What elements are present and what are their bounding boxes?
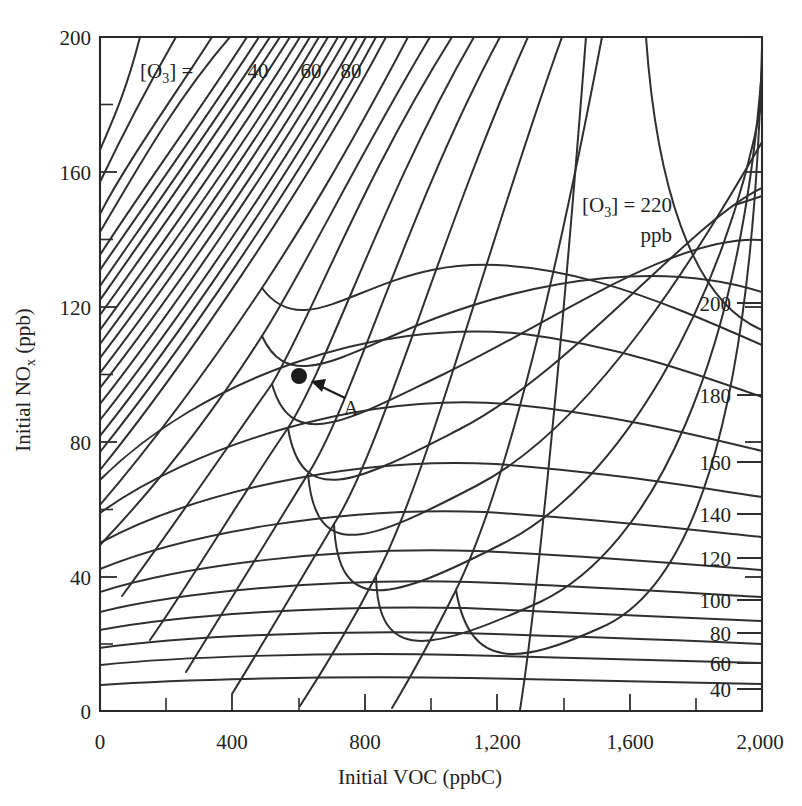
y-tick-label: 200 xyxy=(60,26,92,50)
y-axis-title-units: (ppb) xyxy=(11,308,35,359)
svg-text:[O3] = 220: [O3] = 220 xyxy=(582,193,672,220)
x-tick-label: 1,600 xyxy=(606,730,653,754)
x-tick-label: 400 xyxy=(216,730,248,754)
y-tick-label: 160 xyxy=(60,161,92,185)
background xyxy=(0,0,802,806)
y-tick-label: 0 xyxy=(81,700,92,724)
top-contour-labels: 40 60 80 xyxy=(248,59,362,83)
contour-label-40: 40 xyxy=(710,678,731,702)
o3-220-value: ] = 220 xyxy=(611,193,672,217)
contour-label-140: 140 xyxy=(700,503,732,527)
contour-label-40-top: 40 xyxy=(248,59,269,83)
o3-bracket-close-equals: ] = xyxy=(169,59,193,83)
y-tick-label: 40 xyxy=(70,566,91,590)
y-axis-title: Initial NOx (ppb) xyxy=(11,308,38,451)
isopleth-svg: 200 160 120 80 40 0 0 400 800 1,200 1,60… xyxy=(0,0,802,806)
y-axis-title-main: Initial NO xyxy=(11,366,35,452)
x-tick-label: 800 xyxy=(349,730,381,754)
y-tick-label: 80 xyxy=(70,431,91,455)
contour-label-120: 120 xyxy=(700,547,732,571)
o3-subscript: 3 xyxy=(162,71,169,86)
y-tick-label: 120 xyxy=(60,296,92,320)
y-axis-title-subscript: x xyxy=(23,359,38,366)
contour-label-100: 100 xyxy=(700,589,732,613)
x-tick-label: 0 xyxy=(95,730,106,754)
o3-220-units: ppb xyxy=(641,223,673,247)
x-tick-label: 2,000 xyxy=(736,730,783,754)
contour-label-180: 180 xyxy=(700,384,732,408)
figure-canvas: 200 160 120 80 40 0 0 400 800 1,200 1,60… xyxy=(0,0,802,806)
contour-label-160: 160 xyxy=(700,451,732,475)
contour-label-80-top: 80 xyxy=(341,59,362,83)
point-a-label: A xyxy=(343,396,359,420)
o3-220-subscript: 3 xyxy=(604,205,611,220)
o3-220-bracket-open: [O xyxy=(582,193,604,217)
x-axis-title: Initial VOC (ppbC) xyxy=(338,765,502,789)
contour-label-60-top: 60 xyxy=(301,59,322,83)
contour-label-60: 60 xyxy=(710,652,731,676)
contour-label-80: 80 xyxy=(710,622,731,646)
svg-text:Initial NOx (ppb): Initial NOx (ppb) xyxy=(11,308,38,451)
x-tick-label: 1,200 xyxy=(473,730,520,754)
o3-bracket-open: [O xyxy=(140,59,162,83)
contour-label-200: 200 xyxy=(700,292,732,316)
